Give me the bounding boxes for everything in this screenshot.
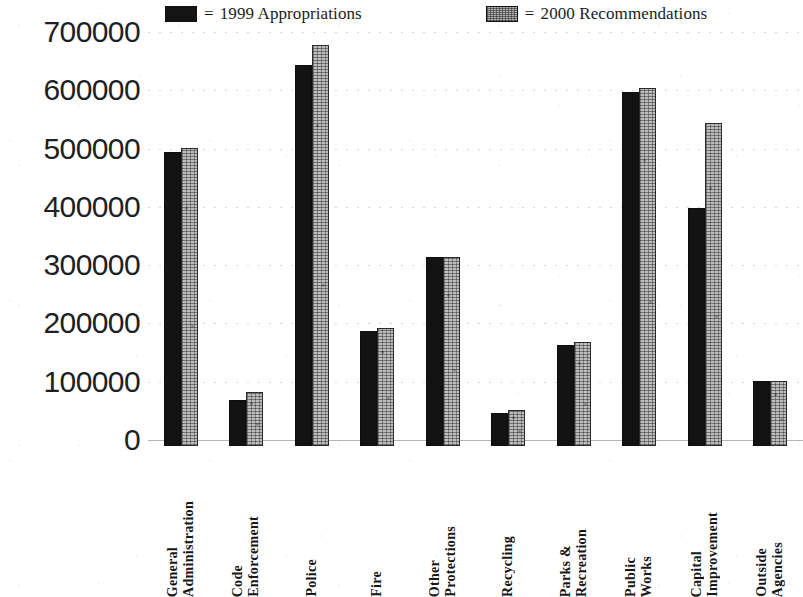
x-axis-label-wrap: Parks &Recreation [558, 454, 590, 597]
x-axis-tick-label: Police [304, 559, 320, 597]
x-axis-label-cell: Recycling [476, 452, 542, 597]
bar-chart: = 1999 Appropriations = 2000 Recommendat… [0, 0, 803, 597]
x-axis-label-wrap: Police [304, 454, 320, 597]
bar [229, 400, 246, 446]
bar [508, 410, 525, 446]
bar-group [345, 26, 411, 446]
bar-group [410, 26, 476, 446]
x-axis-tick-label: Outside [754, 548, 770, 597]
y-axis-tick-600000: 600000 [0, 75, 140, 105]
x-axis-tick-label: Fire [369, 571, 385, 597]
y-axis-tick-100000: 100000 [0, 367, 140, 397]
x-axis-tick-label: Public [623, 557, 639, 597]
bar [360, 331, 377, 446]
x-axis-label-wrap: PublicWorks [623, 454, 655, 597]
x-axis-tick-label: Enforcement [246, 516, 262, 597]
x-axis-tick-label: General [165, 547, 181, 597]
legend-swatch-1999-icon [165, 6, 197, 22]
bar-group [738, 26, 803, 446]
x-axis-tick-label: Works [639, 556, 655, 597]
x-axis-label-cell: Fire [345, 452, 411, 597]
bar [622, 92, 639, 446]
y-axis: 7000006000005000004000003000002000001000… [0, 20, 140, 460]
x-axis-label-cell: Parks &Recreation [541, 452, 607, 597]
bar-groups [148, 26, 803, 446]
x-axis-label-cell: PublicWorks [607, 452, 673, 597]
x-axis-label-cell: CodeEnforcement [214, 452, 280, 597]
bar [246, 392, 263, 446]
y-axis-tick-0: 0 [0, 425, 140, 455]
x-axis-tick-label: Recycling [500, 536, 516, 597]
bar [377, 328, 394, 446]
x-axis-tick-label: Parks & [558, 545, 574, 597]
bar [639, 88, 656, 446]
x-axis-tick-label: Improvement [705, 512, 721, 597]
bar [181, 148, 198, 446]
x-axis-tick-label: Protections [443, 526, 459, 597]
bar [770, 381, 787, 446]
bar [753, 381, 770, 446]
x-axis-tick-label: Other [427, 560, 443, 597]
bar-group [476, 26, 542, 446]
y-axis-tick-500000: 500000 [0, 134, 140, 164]
x-axis-label-wrap: OtherProtections [427, 454, 459, 597]
x-axis-label-wrap: CodeEnforcement [230, 454, 262, 597]
legend-equals-sign-1999: = [204, 4, 214, 25]
x-axis-label-wrap: Recycling [500, 454, 516, 597]
y-axis-tick-200000: 200000 [0, 308, 140, 338]
x-axis: GeneralAdministrationCodeEnforcementPoli… [148, 452, 803, 597]
bar [426, 257, 443, 446]
bar [557, 345, 574, 446]
x-axis-label-cell: OtherProtections [410, 452, 476, 597]
bar [491, 413, 508, 446]
x-axis-tick-label: Agencies [770, 542, 786, 597]
x-axis-tick-label: Code [230, 565, 246, 597]
legend-label-1999: 1999 Appropriations [220, 4, 362, 25]
legend-equals-sign-2000: = [525, 4, 535, 25]
bar-group [214, 26, 280, 446]
legend-item-2000-recommendations: = 2000 Recommendations [486, 4, 707, 25]
bar [574, 342, 591, 446]
x-axis-label-wrap: CapitalImprovement [689, 454, 721, 597]
bar [443, 257, 460, 446]
y-axis-tick-300000: 300000 [0, 250, 140, 280]
legend-item-1999-appropriations: = 1999 Appropriations [165, 4, 362, 25]
x-axis-label-wrap: Fire [369, 454, 385, 597]
x-axis-label-cell: GeneralAdministration [148, 452, 214, 597]
x-axis-tick-label: Capital [689, 551, 705, 597]
y-axis-tick-400000: 400000 [0, 192, 140, 222]
chart-legend: = 1999 Appropriations = 2000 Recommendat… [155, 2, 803, 26]
bar [295, 65, 312, 446]
bar [688, 208, 705, 446]
x-axis-label-cell: Police [279, 452, 345, 597]
bar-group [279, 26, 345, 446]
bar [312, 45, 329, 446]
bar-group [541, 26, 607, 446]
x-axis-label-cell: OutsideAgencies [738, 452, 803, 597]
x-axis-tick-label: Recreation [574, 529, 590, 597]
bar-group [148, 26, 214, 446]
bar-group [672, 26, 738, 446]
y-axis-tick-700000: 700000 [0, 17, 140, 47]
x-axis-label-wrap: OutsideAgencies [754, 454, 786, 597]
x-axis-tick-label: Administration [181, 501, 197, 597]
plot-area [148, 26, 803, 446]
bar [164, 152, 181, 446]
bar-group [607, 26, 673, 446]
bar [705, 123, 722, 446]
x-axis-label-cell: CapitalImprovement [672, 452, 738, 597]
x-axis-label-wrap: GeneralAdministration [165, 454, 197, 597]
legend-label-2000: 2000 Recommendations [541, 4, 708, 25]
legend-swatch-2000-icon [486, 6, 518, 22]
